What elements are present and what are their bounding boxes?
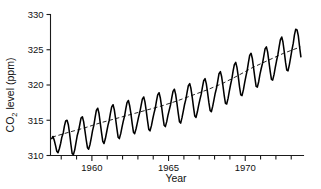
svg-text:CO2 level (ppm): CO2 level (ppm) xyxy=(4,58,19,133)
x-axis-title: Year xyxy=(165,172,187,184)
x-tick-label: 1965 xyxy=(158,162,179,173)
y-axis-ticks xyxy=(47,15,51,156)
y-tick-label: 310 xyxy=(28,150,44,161)
y-tick-label: 325 xyxy=(28,44,44,55)
y-axis-title: CO2 level (ppm) xyxy=(4,58,19,133)
x-tick-label: 1970 xyxy=(235,162,256,173)
y-tick-label: 315 xyxy=(28,115,44,126)
chart-canvas: 310315320325330 196019651970 CO2 level (… xyxy=(0,0,321,189)
co2-monthly-series xyxy=(52,29,301,154)
y-tick-label: 320 xyxy=(28,79,44,90)
x-axis-ticks xyxy=(61,156,291,162)
co2-keeling-curve-figure: 310315320325330 196019651970 CO2 level (… xyxy=(0,0,321,189)
x-tick-label: 1960 xyxy=(81,162,102,173)
y-axis-tick-labels: 310315320325330 xyxy=(28,9,44,161)
x-axis-tick-labels: 196019651970 xyxy=(81,162,255,173)
y-tick-label: 330 xyxy=(28,9,44,20)
